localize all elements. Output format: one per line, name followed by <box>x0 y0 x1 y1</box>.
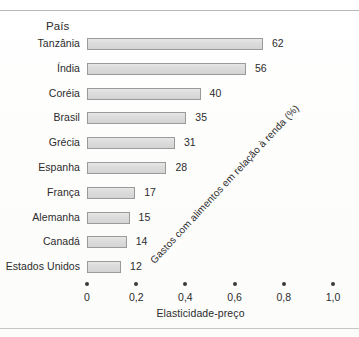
x-tick-label: 0,4 <box>178 291 193 303</box>
bar-value-label: 12 <box>130 260 142 272</box>
x-tick-label: 0 <box>84 291 90 303</box>
bar-row: Espanha28 <box>0 159 359 179</box>
bar-chart-plot: País Tanzânia62Índia56Coréia40Brasil35Gr… <box>0 0 359 337</box>
category-label: Grécia <box>0 136 80 148</box>
bar <box>87 112 186 124</box>
bar-value-label: 14 <box>136 235 148 247</box>
bar <box>87 236 127 248</box>
x-tick-dot <box>134 282 138 286</box>
bar-value-label: 56 <box>255 62 267 74</box>
bar-value-label: 31 <box>184 136 196 148</box>
category-column-header: País <box>46 20 69 32</box>
bar-row: Coréia40 <box>0 85 359 105</box>
x-tick-label: 0,8 <box>276 291 291 303</box>
category-label: Brasil <box>0 111 80 123</box>
x-tick-dot <box>85 282 89 286</box>
bar <box>87 63 246 75</box>
bar-value-label: 62 <box>272 37 284 49</box>
x-tick-dot <box>282 282 286 286</box>
x-tick-dot <box>233 282 237 286</box>
bar-value-label: 15 <box>139 211 151 223</box>
category-label: França <box>0 186 80 198</box>
bar <box>87 212 130 224</box>
category-label: Tanzânia <box>0 37 80 49</box>
bar-row: Tanzânia62 <box>0 35 359 55</box>
category-label: Estados Unidos <box>0 260 80 272</box>
category-label: Alemanha <box>0 211 80 223</box>
x-tick-dot <box>331 282 335 286</box>
bar-value-label: 35 <box>195 111 207 123</box>
bar-row: Índia56 <box>0 60 359 80</box>
category-label: Espanha <box>0 161 80 173</box>
x-tick-label: 0,2 <box>129 291 144 303</box>
bar <box>87 88 201 100</box>
bar <box>87 162 166 174</box>
bar <box>87 261 121 273</box>
bar <box>87 137 175 149</box>
bar-row: Brasil35 <box>0 109 359 129</box>
bar-value-label: 17 <box>144 186 156 198</box>
x-axis-title: Elasticidade-preço <box>0 307 359 319</box>
bar <box>87 38 263 50</box>
bar-value-label: 40 <box>210 87 222 99</box>
bar-row: Estados Unidos12 <box>0 258 359 278</box>
category-label: Canadá <box>0 235 80 247</box>
chart-page: País Tanzânia62Índia56Coréia40Brasil35Gr… <box>0 0 359 337</box>
x-tick-dot <box>183 282 187 286</box>
category-label: Índia <box>0 62 80 74</box>
x-tick-label: 1,0 <box>326 291 341 303</box>
bar-row: França17 <box>0 184 359 204</box>
bar <box>87 187 135 199</box>
x-tick-label: 0,6 <box>227 291 242 303</box>
category-label: Coréia <box>0 87 80 99</box>
x-axis-title-text: Elasticidade-preço <box>114 307 244 319</box>
bar-row: Grécia31 <box>0 134 359 154</box>
bar-value-label: 28 <box>175 161 187 173</box>
